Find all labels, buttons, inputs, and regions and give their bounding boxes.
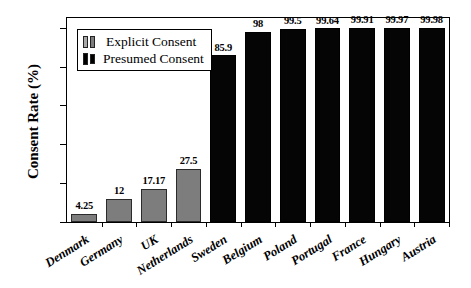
bar-france [349, 28, 375, 222]
x-axis-tick [102, 222, 103, 227]
y-axis-tick [60, 222, 67, 223]
bar-netherlands [176, 169, 202, 222]
x-axis-tick [241, 222, 242, 227]
bar-uk [141, 189, 167, 222]
bar-portugal [315, 28, 341, 222]
bar-germany [106, 199, 132, 222]
y-axis-tick [60, 144, 67, 145]
bar-hungary [384, 28, 410, 222]
bar-denmark [71, 214, 97, 222]
bar-value-label: 12 [99, 186, 139, 197]
bar-belgium [245, 32, 271, 222]
legend-item-presumed-consent: Presumed Consent [83, 50, 204, 67]
legend-item-explicit-consent: Explicit Consent [83, 33, 204, 50]
x-axis-tick [310, 222, 311, 227]
legend-swatch-presumed-icon [83, 53, 100, 65]
x-axis-tick [345, 222, 346, 227]
x-axis-tick [206, 222, 207, 227]
legend-label-explicit: Explicit Consent [106, 35, 196, 49]
x-axis-tick [449, 222, 450, 227]
bar-value-label: 4.25 [64, 201, 104, 212]
bar-sweden [210, 55, 236, 222]
chart-figure: Consent Rate (%) 0204060801004.251217.17… [0, 0, 471, 288]
x-axis-tick [171, 222, 172, 227]
bar-poland [280, 29, 306, 222]
bar-austria [419, 28, 445, 222]
plot-area: 0204060801004.251217.1727.585.99899.599.… [66, 17, 450, 223]
legend-label-presumed: Presumed Consent [103, 52, 204, 66]
bar-value-label: 99.98 [412, 15, 452, 26]
legend-swatch-explicit-icon [83, 36, 100, 48]
x-axis-tick [275, 222, 276, 227]
bar-value-label: 17.17 [134, 176, 174, 187]
x-axis-tick [414, 222, 415, 227]
y-axis-tick [60, 67, 67, 68]
chart-legend: Explicit Consent Presumed Consent [77, 29, 212, 71]
y-axis-tick [60, 28, 67, 29]
bar-value-label: 27.5 [169, 156, 209, 167]
y-axis-title: Consent Rate (%) [25, 27, 42, 217]
x-axis-tick [380, 222, 381, 227]
y-axis-tick [60, 105, 67, 106]
y-axis-tick [60, 183, 67, 184]
x-axis-tick [136, 222, 137, 227]
